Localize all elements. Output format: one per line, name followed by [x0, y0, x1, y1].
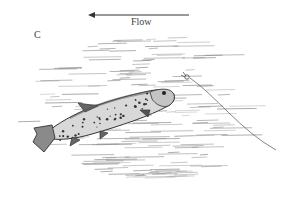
- water-line: [131, 84, 148, 85]
- water-line: [117, 41, 151, 42]
- water-line: [222, 135, 263, 136]
- water-line: [174, 136, 195, 137]
- water-line: [213, 127, 224, 128]
- trout-spot: [59, 135, 61, 137]
- water-line: [182, 115, 190, 116]
- water-line: [122, 141, 158, 142]
- water-line: [145, 177, 175, 178]
- water-line: [75, 109, 83, 110]
- water-line: [173, 146, 204, 147]
- trout-spot: [74, 134, 76, 136]
- water-line: [132, 64, 150, 65]
- water-line: [83, 57, 121, 58]
- water-line: [183, 85, 212, 86]
- water-line: [155, 170, 181, 171]
- water-line: [171, 162, 188, 163]
- water-line: [217, 108, 257, 109]
- trout-spot: [135, 99, 137, 101]
- water-line: [109, 174, 141, 175]
- trout-spot: [141, 108, 143, 110]
- water-line: [36, 81, 60, 82]
- water-line: [100, 48, 116, 49]
- water-line: [45, 102, 82, 103]
- trout-illustration: [0, 0, 290, 213]
- fishing-line: [190, 78, 276, 150]
- water-line: [125, 132, 161, 133]
- water-line: [150, 169, 180, 170]
- water-line: [158, 154, 198, 155]
- water-line: [120, 70, 140, 71]
- water-line: [126, 177, 134, 178]
- fly-icon: [181, 72, 189, 79]
- water-line: [93, 162, 131, 163]
- water-line: [149, 48, 158, 49]
- water-line: [175, 110, 200, 111]
- trout-spot: [125, 104, 127, 106]
- water-line: [151, 124, 182, 125]
- water-line: [52, 106, 62, 107]
- trout-spot: [62, 130, 64, 132]
- water-line: [175, 112, 198, 113]
- water-line: [46, 100, 72, 101]
- water-line: [153, 41, 176, 42]
- water-line: [177, 42, 210, 43]
- water-line: [120, 73, 152, 74]
- water-line: [157, 55, 182, 56]
- water-line: [129, 72, 142, 73]
- water-line: [136, 67, 148, 68]
- trout-spot: [122, 115, 124, 117]
- water-line: [112, 79, 146, 80]
- panel-label: C: [34, 29, 41, 40]
- trout-spot: [67, 135, 69, 137]
- trout-spot: [106, 118, 109, 121]
- water-line: [151, 131, 194, 132]
- water-line: [173, 76, 202, 77]
- water-line: [174, 174, 198, 175]
- water-line: [139, 142, 180, 143]
- water-line: [142, 60, 155, 61]
- water-line: [200, 154, 208, 155]
- water-line: [109, 51, 136, 52]
- water-line: [50, 96, 59, 97]
- water-line: [148, 145, 170, 146]
- water-line: [129, 137, 169, 138]
- trout-spot: [119, 116, 122, 119]
- water-line: [58, 86, 100, 87]
- trout-spot: [97, 116, 98, 117]
- trout-spot: [134, 105, 137, 108]
- water-line: [144, 58, 185, 59]
- trout-spot: [62, 135, 64, 137]
- trout-spot: [99, 123, 101, 125]
- water-line: [18, 121, 40, 122]
- water-line: [95, 169, 114, 170]
- water-line: [229, 106, 266, 107]
- water-line: [205, 55, 245, 56]
- water-line: [153, 86, 180, 87]
- trout-spot: [96, 126, 97, 127]
- water-line: [62, 94, 99, 95]
- water-line: [98, 43, 127, 44]
- water-line: [123, 165, 154, 166]
- water-line: [197, 120, 219, 121]
- trout-spot: [78, 133, 80, 135]
- trout-spot: [145, 98, 147, 100]
- trout-spot: [83, 118, 85, 120]
- trout-spot: [109, 115, 110, 116]
- water-line: [181, 144, 214, 145]
- water-line: [133, 60, 151, 61]
- water-line: [71, 155, 114, 156]
- flow-label: Flow: [131, 16, 152, 27]
- water-line: [106, 160, 145, 161]
- trout-spot: [143, 103, 145, 105]
- water-line: [164, 80, 189, 81]
- trout-spot: [147, 100, 148, 101]
- water-line: [108, 168, 128, 169]
- water-line: [134, 177, 169, 178]
- water-line: [100, 171, 112, 172]
- trout-spot: [114, 107, 115, 108]
- water-line: [114, 40, 143, 41]
- water-line: [125, 157, 164, 158]
- trout-spot: [72, 125, 74, 127]
- water-line: [213, 125, 234, 126]
- trout-spot: [93, 122, 95, 124]
